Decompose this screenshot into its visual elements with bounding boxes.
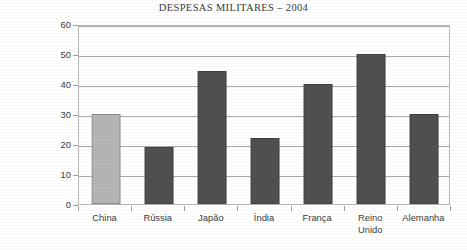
x-tick-mark bbox=[397, 206, 398, 211]
plot-area bbox=[78, 25, 450, 205]
y-tick-label: 40 bbox=[45, 79, 71, 90]
bar-china[interactable] bbox=[91, 114, 120, 204]
bar-slot bbox=[345, 26, 398, 204]
y-tick-label: 0 bbox=[45, 199, 71, 210]
bar-slot bbox=[292, 26, 345, 204]
x-tick-mark bbox=[344, 206, 345, 211]
bar-slot bbox=[238, 26, 291, 204]
bar-alemanha[interactable] bbox=[410, 114, 439, 204]
bar-slot bbox=[398, 26, 451, 204]
x-tick-label-line: Unido bbox=[333, 224, 407, 236]
bar-slot bbox=[132, 26, 185, 204]
bars-layer bbox=[79, 26, 449, 204]
x-tick-mark bbox=[184, 206, 185, 211]
x-tick-mark bbox=[450, 206, 451, 211]
y-tick-label: 60 bbox=[45, 19, 71, 30]
bar-rússia[interactable] bbox=[144, 147, 173, 204]
y-tick-label: 50 bbox=[45, 49, 71, 60]
y-tick-label: 10 bbox=[45, 169, 71, 180]
bar-frança[interactable] bbox=[304, 84, 333, 204]
bar-japão[interactable] bbox=[197, 71, 226, 205]
y-tick-label: 30 bbox=[45, 109, 71, 120]
chart-title: DESPESAS MILITARES – 2004 bbox=[0, 2, 467, 13]
bar-slot bbox=[185, 26, 238, 204]
bar-reino-unido[interactable] bbox=[357, 54, 386, 204]
y-tick-label: 20 bbox=[45, 139, 71, 150]
x-tick-mark bbox=[291, 206, 292, 211]
x-tick-mark bbox=[78, 206, 79, 211]
x-tick-label-alemanha: Alemanha bbox=[386, 212, 460, 224]
bar-slot bbox=[79, 26, 132, 204]
x-tick-mark bbox=[237, 206, 238, 211]
x-tick-label-line: Alemanha bbox=[386, 212, 460, 224]
bar-índia[interactable] bbox=[250, 138, 279, 204]
x-tick-mark bbox=[131, 206, 132, 211]
